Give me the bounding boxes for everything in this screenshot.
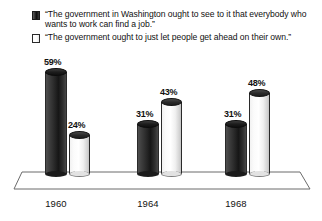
bar-foot — [249, 171, 270, 177]
x-axis-label-1960: 1960 — [36, 198, 76, 209]
bar-value-label: 31% — [224, 109, 241, 119]
bar-value-label: 24% — [68, 120, 85, 130]
bar-top-cap — [161, 98, 182, 106]
bar-body — [225, 124, 247, 174]
bar-top-cap — [249, 89, 270, 97]
bar-1964-government-jobs — [137, 120, 159, 174]
bar-foot — [137, 171, 159, 177]
bar-1964-get-ahead-own — [161, 98, 182, 174]
bar-body — [137, 124, 159, 174]
bar-body — [45, 72, 67, 174]
bar-value-label: 31% — [136, 109, 153, 119]
bar-top-cap — [225, 120, 247, 128]
bar-value-label: 48% — [248, 78, 265, 88]
bar-body — [161, 102, 182, 174]
bar-top-cap — [45, 68, 67, 76]
bar-1960-government-jobs — [45, 68, 67, 174]
bar-foot — [161, 171, 182, 177]
bar-1968-get-ahead-own — [249, 89, 270, 174]
bar-1960-get-ahead-own — [69, 131, 90, 174]
x-axis-label-1964: 1964 — [128, 198, 168, 209]
bar-body — [69, 135, 90, 174]
bar-foot — [69, 171, 90, 177]
bar-top-cap — [137, 120, 159, 128]
bar-1968-government-jobs — [225, 120, 247, 174]
bar-foot — [45, 171, 67, 177]
bar-chart-plot-area: 59% 24% 1960 31% 43% 1964 31% 48% 1968 — [0, 0, 322, 221]
bar-top-cap — [69, 131, 90, 139]
bar-foot — [225, 171, 247, 177]
x-axis-label-1968: 1968 — [216, 198, 256, 209]
bar-body — [249, 93, 270, 174]
bar-value-label: 59% — [44, 57, 61, 67]
bar-value-label: 43% — [160, 87, 177, 97]
